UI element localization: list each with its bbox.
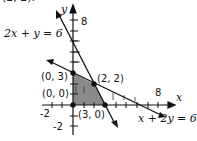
y-tick-label-8: 8	[81, 16, 87, 27]
y-axis-arrow-icon	[70, 5, 76, 13]
x-tick-label-8: 8	[155, 87, 161, 98]
x-axis-label: x	[176, 91, 183, 104]
point-label-0-3: (0, 3)	[41, 71, 68, 82]
x-axis-arrow-icon	[168, 102, 175, 108]
x-tick-label-neg2: -2	[40, 108, 50, 119]
y-axis-label: y	[60, 3, 68, 16]
line2-arrow-left-icon	[46, 59, 54, 65]
line1-arrow-bottom-icon	[111, 120, 118, 128]
point-label-0-0: (0, 0)	[42, 88, 69, 99]
feasible-region-graph: (0, 3) (2, 2) (0, 0) (3, 0) 8 -2 8 -2 x …	[0, 0, 197, 141]
equation-label-2x-plus-y: 2x + y = 6	[3, 27, 63, 40]
equation-label-x-plus-2y: x + 2y = 6	[138, 112, 197, 125]
point-label-2-2: (2, 2)	[97, 73, 124, 84]
point-label-3-0: (3, 0)	[78, 109, 105, 120]
y-tick-label-neg2: -2	[53, 121, 63, 132]
line-2x-plus-y-eq-6	[58, 13, 115, 124]
